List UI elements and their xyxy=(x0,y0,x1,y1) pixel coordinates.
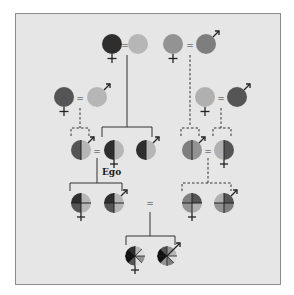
sibling-bracket-right2-dashed xyxy=(213,128,231,136)
female-symbol-icon xyxy=(77,213,85,221)
gen5-female-eighths xyxy=(125,246,145,266)
equals-sign: = xyxy=(146,198,154,208)
gen4-female-quarter-1 xyxy=(71,193,91,213)
equals-sign: = xyxy=(121,40,129,50)
gen3-female-half-4 xyxy=(214,140,234,160)
female-symbol-icon xyxy=(169,54,178,63)
gen1-spouse-light xyxy=(128,34,148,54)
sibling-bracket-left-dashed xyxy=(71,128,89,136)
gen2-right-couple: = xyxy=(195,84,250,128)
gen2-female-dark xyxy=(54,87,74,107)
equals-sign: = xyxy=(93,146,101,156)
gen2-left-couple: = xyxy=(54,84,110,128)
gen2-female-light xyxy=(195,87,215,107)
male-symbol-icon xyxy=(244,84,250,90)
gen1-female-mediumlight xyxy=(163,34,183,54)
gen1-left-couple: = xyxy=(102,34,148,127)
female-symbol-icon xyxy=(220,160,228,168)
male-symbol-icon xyxy=(153,137,159,143)
female-symbol-icon xyxy=(131,266,139,274)
ego-label: Ego xyxy=(102,167,121,177)
sibling-bracket-row4-left xyxy=(70,183,122,191)
sibling-bracket-center-solid xyxy=(102,127,152,137)
equals-sign: = xyxy=(204,146,212,156)
sibling-bracket-row4-right-dashed xyxy=(182,183,231,191)
female-symbol-icon xyxy=(60,107,69,116)
male-symbol-icon xyxy=(104,84,110,90)
gen1-right-couple: = xyxy=(163,31,219,127)
female-symbol-icon xyxy=(201,107,210,116)
male-symbol-icon xyxy=(231,190,237,196)
ego-female-half xyxy=(104,140,124,160)
male-symbol-icon xyxy=(213,31,219,37)
female-symbol-icon xyxy=(108,54,117,63)
gen1-female-black xyxy=(102,34,122,54)
male-symbol-icon xyxy=(199,137,205,143)
male-symbol-icon xyxy=(88,137,94,143)
equals-sign: = xyxy=(76,93,84,103)
female-symbol-icon xyxy=(188,213,196,221)
kinship-diagram: = = = = xyxy=(0,0,294,295)
equals-sign: = xyxy=(186,40,194,50)
sibling-bracket-row5 xyxy=(126,236,175,245)
sibling-bracket-right1-dashed xyxy=(181,128,199,136)
equals-sign: = xyxy=(217,93,225,103)
gen4-female-quarter-3 xyxy=(182,193,202,213)
